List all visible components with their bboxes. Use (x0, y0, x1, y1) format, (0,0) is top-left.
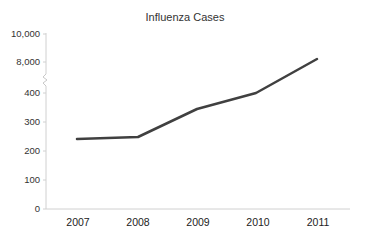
series-line-influenza-cases (77, 59, 317, 139)
y-tick-400: 400 (24, 87, 40, 98)
x-tick-2011: 2011 (307, 216, 330, 228)
x-tick-2010: 2010 (246, 216, 270, 228)
y-tick-200: 200 (24, 145, 40, 156)
line-chart: 10,000 8,000 400 300 200 100 0 2007 2008… (0, 0, 370, 240)
y-tick-300: 300 (24, 116, 40, 127)
y-tick-8000: 8,000 (16, 56, 40, 67)
x-tick-2007: 2007 (66, 216, 90, 228)
y-tick-0: 0 (35, 203, 40, 214)
y-tick-10000: 10,000 (11, 28, 40, 39)
y-tick-labels: 10,000 8,000 400 300 200 100 0 (11, 28, 40, 214)
x-tick-labels: 2007 2008 2009 2010 2011 (66, 216, 329, 228)
y-tick-100: 100 (24, 174, 40, 185)
x-tick-2009: 2009 (186, 216, 210, 228)
x-tick-2008: 2008 (126, 216, 150, 228)
y-axis-break (43, 74, 47, 86)
